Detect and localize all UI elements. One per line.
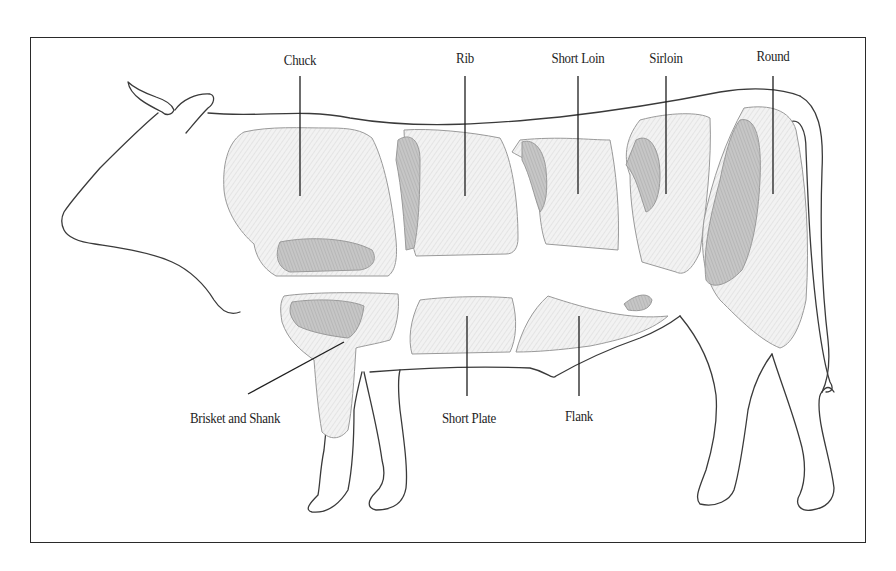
label-short-plate: Short Plate [430,410,507,427]
label-flank: Flank [553,408,605,425]
cut-short-plate [410,297,516,354]
cow-illustration [0,0,896,571]
label-brisket-and-shank: Brisket and Shank [158,410,313,427]
label-rib: Rib [448,50,482,67]
cut-sirloin [626,114,710,273]
hind-leg-outline [680,316,772,505]
cut-rib-meat [396,137,420,250]
cuts [224,107,808,438]
cut-flank-meat [624,295,652,311]
label-round: Round [747,48,799,65]
cut-rib [404,129,518,256]
back-outline [208,89,800,125]
label-short-loin: Short Loin [544,50,613,67]
label-sirloin: Sirloin [640,50,692,67]
head-outline [62,113,240,314]
label-chuck: Chuck [274,52,326,69]
horn-icon [128,82,174,114]
